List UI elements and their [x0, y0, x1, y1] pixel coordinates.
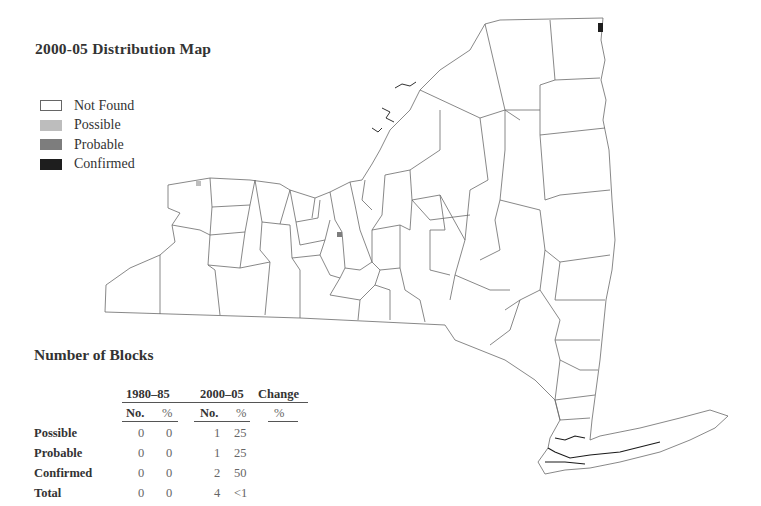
cell: 4: [214, 486, 220, 501]
cell: 0: [166, 426, 172, 441]
period-header-change: Change: [258, 387, 299, 402]
cell: 1: [214, 446, 220, 461]
probable-marker: [337, 232, 342, 237]
cell: <1: [234, 486, 247, 501]
row-label-confirmed: Confirmed: [34, 466, 92, 481]
cell: 50: [234, 466, 247, 481]
cell: 2: [214, 466, 220, 481]
period-header-1980: 1980–85: [126, 387, 170, 402]
sub-header-no: No.: [200, 406, 218, 421]
period-header-2000: 2000–05: [200, 387, 244, 402]
sub-header-change-pct: %: [274, 406, 284, 421]
cell: 25: [234, 426, 247, 441]
header-rule: [122, 402, 308, 403]
sub-header-no: No.: [126, 406, 144, 421]
cell: 0: [138, 466, 144, 481]
cell: 0: [166, 446, 172, 461]
cell: 0: [166, 466, 172, 481]
subheader-rule-change: [268, 421, 298, 422]
cell: 0: [138, 486, 144, 501]
subheader-rule-2000: [194, 421, 250, 422]
cell: 0: [166, 486, 172, 501]
sub-header-pct: %: [162, 406, 172, 421]
sub-header-pct: %: [236, 406, 246, 421]
row-label-total: Total: [34, 486, 61, 501]
row-label-possible: Possible: [34, 426, 77, 441]
cell: 25: [234, 446, 247, 461]
cell: 0: [138, 446, 144, 461]
row-label-probable: Probable: [34, 446, 82, 461]
confirmed-marker: [598, 23, 603, 32]
cell: 1: [214, 426, 220, 441]
blocks-table: 1980–85 2000–05 Change No. % No. % % Pos…: [0, 0, 320, 506]
cell: 0: [138, 426, 144, 441]
subheader-rule-1980: [122, 421, 178, 422]
